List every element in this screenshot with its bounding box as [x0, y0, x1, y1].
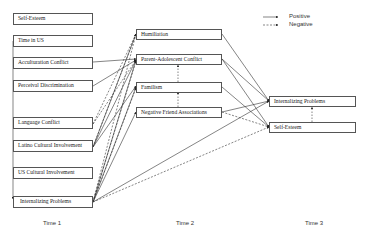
- t2-negative-friend-associations: Negative Friend Associations: [136, 107, 222, 118]
- time-1-label: Time 1: [43, 220, 61, 226]
- time-2-label: Time 2: [176, 220, 194, 226]
- t1-acculturation-conflict: Acculturation Conflict: [13, 57, 93, 69]
- t1-us-cultural-involvement: US Cultural Involvement: [13, 167, 93, 179]
- t2-humiliation: Humiliation: [136, 29, 222, 40]
- t2-parent-adolescent-conflict: Parent-Adolescent Conflict: [136, 54, 222, 65]
- time-3-label: Time 3: [305, 220, 323, 226]
- t1-latino-cultural-involvement: Latino Cultural Involvement: [13, 140, 93, 152]
- path-diagram: Positive Negative Self-Esteem Time in US…: [0, 0, 366, 240]
- t1-language-conflict: Language Conflict: [13, 117, 93, 129]
- t3-internalizing-problems: Internalizing Problems: [269, 96, 356, 107]
- t2-familism: Familism: [136, 82, 222, 93]
- t3-self-esteem: Self-Esteem: [269, 122, 356, 133]
- legend-negative: Negative: [289, 21, 313, 27]
- t1-self-esteem: Self-Esteem: [13, 13, 93, 25]
- t1-internalizing-problems: Internalizing Problems: [13, 196, 93, 208]
- t1-time-in-us: Time in US: [13, 35, 93, 47]
- legend-positive: Positive: [289, 13, 310, 19]
- t1-perceived-discrimination: Perceival Discrimination: [13, 80, 93, 92]
